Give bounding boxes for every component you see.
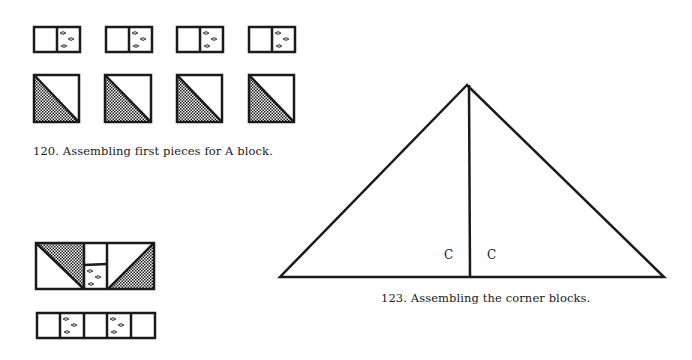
half-square-triangle xyxy=(105,75,151,122)
assembly-top-unit xyxy=(36,243,154,289)
illustration-canvas xyxy=(0,0,692,360)
plain-floral-pair xyxy=(106,27,152,52)
half-square-triangle xyxy=(34,75,79,122)
half-square-triangle xyxy=(249,75,294,122)
fig120-row2 xyxy=(34,75,294,122)
plain-floral-pair xyxy=(34,27,80,52)
plain-floral-pair xyxy=(177,27,223,52)
half-square-triangle xyxy=(177,75,222,122)
assembly-strip xyxy=(37,313,155,338)
plain-floral-pair xyxy=(249,27,295,52)
caption-fig123: 123. Assembling the corner blocks. xyxy=(381,291,590,305)
fig120-row1 xyxy=(34,27,295,52)
label-c-right: C xyxy=(487,248,496,262)
label-c-left: C xyxy=(444,248,453,262)
corner-block-triangle xyxy=(280,85,664,277)
caption-fig120: 120. Assembling first pieces for A block… xyxy=(33,144,273,158)
